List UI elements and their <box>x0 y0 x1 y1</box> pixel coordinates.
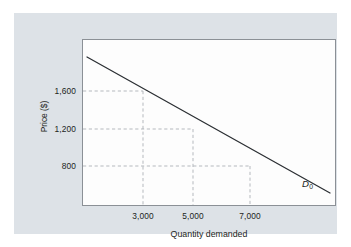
demand-curve-label: D0 <box>302 178 313 190</box>
x-tick-label-5000: 5,000 <box>170 211 216 221</box>
figure-panel: 1,600 1,200 800 3,000 5,000 7,000 Price … <box>14 13 337 234</box>
x-tick-label-3000: 3,000 <box>120 211 166 221</box>
plot-area <box>82 39 336 206</box>
demand-curve-label-subscript: 0 <box>309 183 313 190</box>
y-axis-title: Price ($) <box>39 82 50 152</box>
demand-curve-label-letter: D <box>302 178 309 189</box>
y-tick-label-800: 800 <box>36 161 76 171</box>
x-axis-title: Quantity demanded <box>82 229 336 240</box>
x-tick-label-7000: 7,000 <box>227 211 273 221</box>
